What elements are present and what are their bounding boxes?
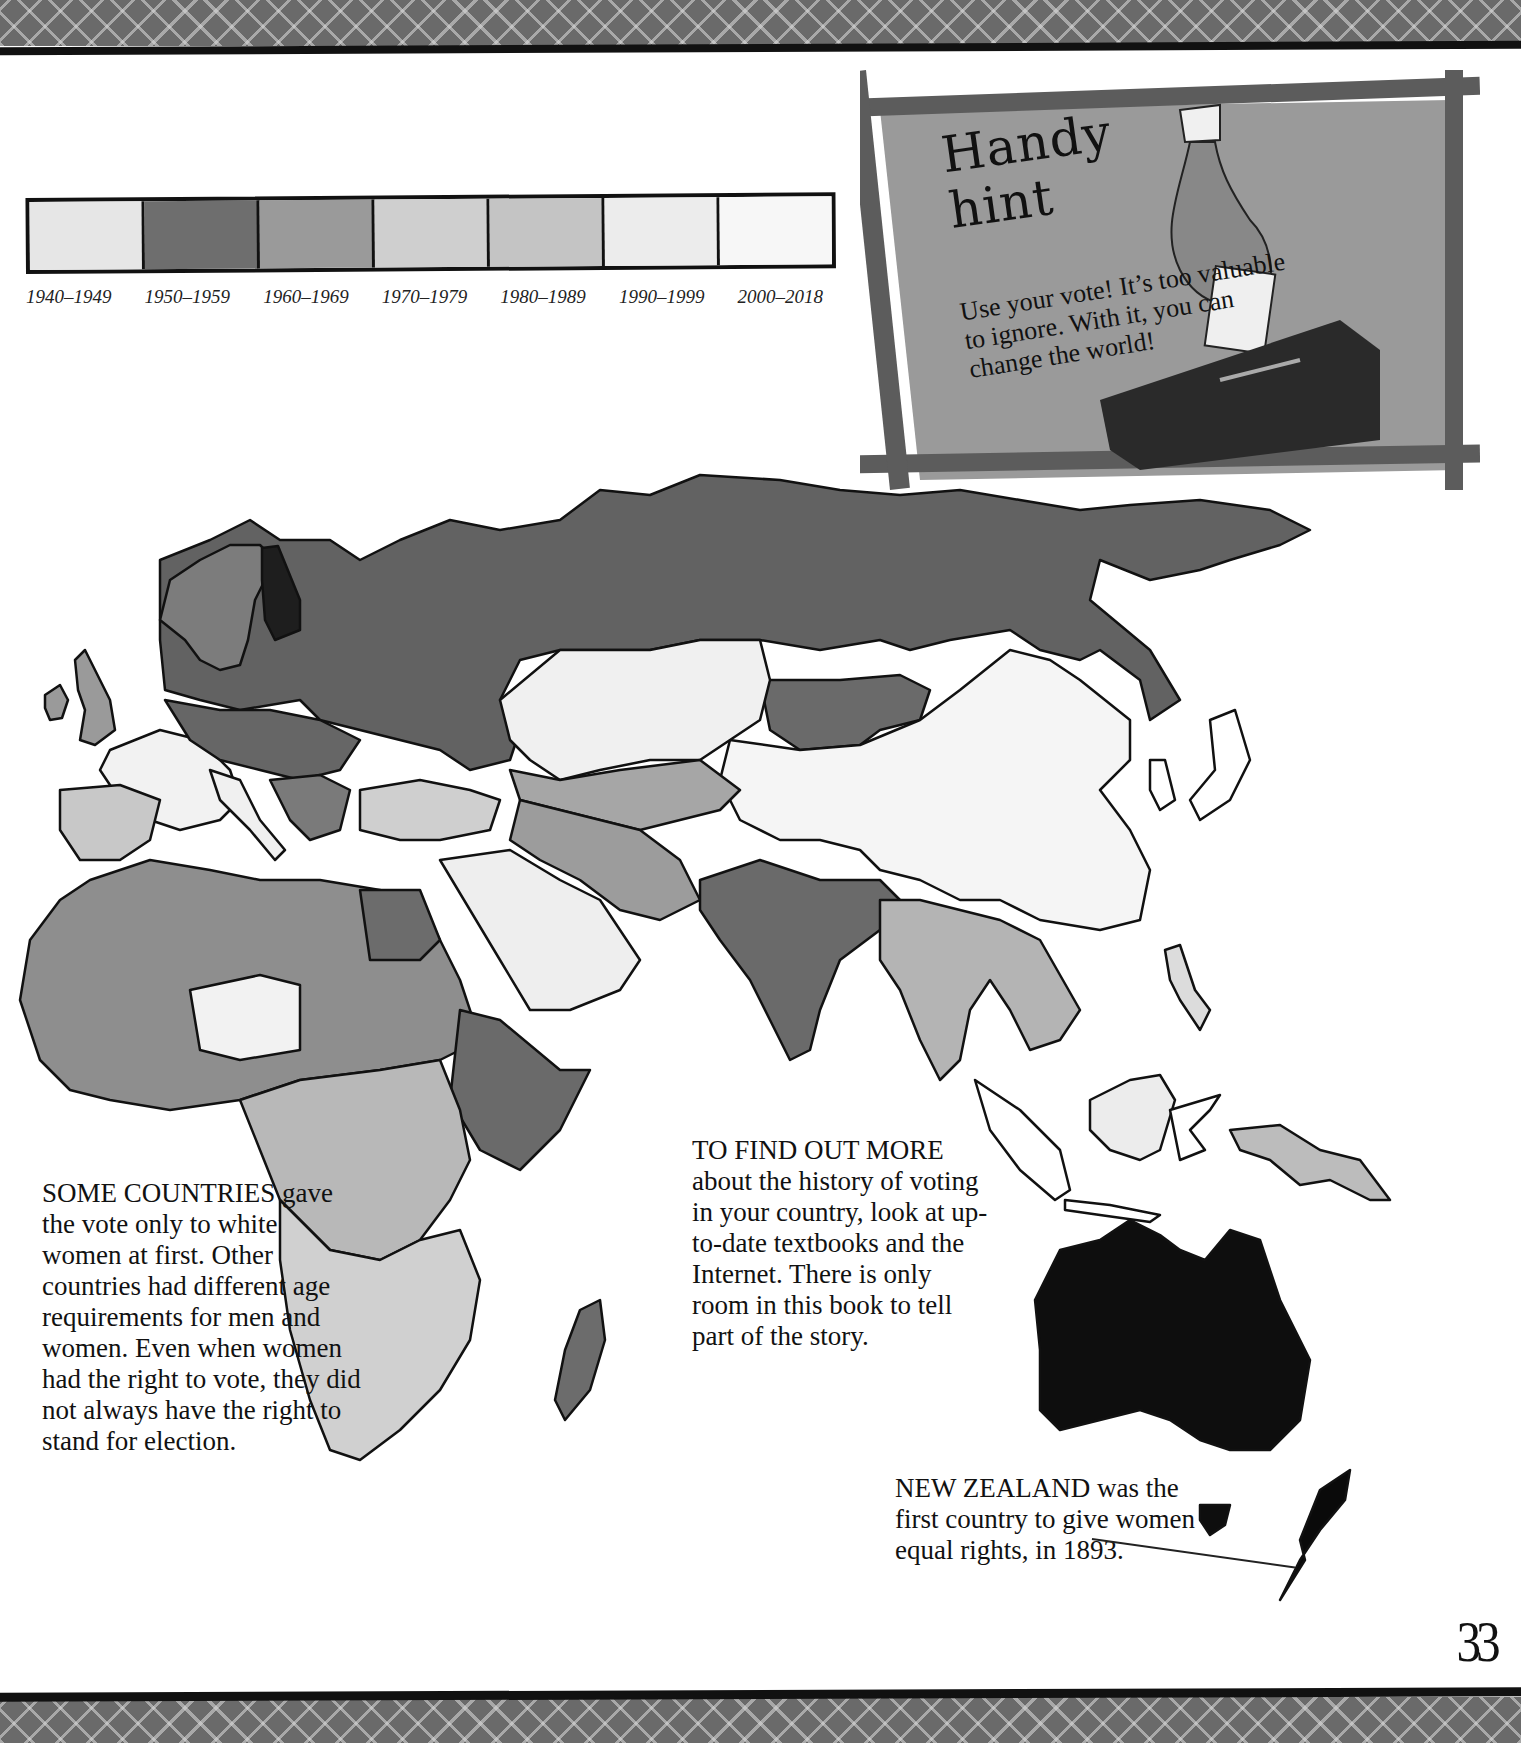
region-norway-sweden [160,545,275,670]
legend-swatch [29,201,144,270]
region-mongolia [760,675,930,750]
region-spain [60,785,160,860]
region-russia [160,475,1310,770]
region-arabia [440,850,640,1010]
text-lead: TO FIND OUT MORE [692,1135,944,1165]
region-india [700,860,900,1060]
region-sulawesi [1170,1095,1220,1160]
page-number: 33 [1456,1608,1495,1675]
text-new-zealand: NEW ZEALAND was the first country to giv… [895,1473,1195,1566]
text-some-countries: SOME COUNTRIES gave the vote only to whi… [42,1178,362,1457]
region-ireland [45,685,68,720]
legend-label: 1950–1959 [145,286,264,308]
region-tasmania [1200,1505,1230,1535]
legend-swatch [374,199,489,268]
region-niger [190,975,300,1060]
text-lead: NEW ZEALAND [895,1473,1090,1503]
legend-label: 1940–1949 [26,286,145,308]
text-body: gave the vote only to white women at fir… [42,1178,361,1456]
legend-label: 1980–1989 [500,286,619,308]
region-central-asia [510,760,740,830]
legend-swatch [489,198,604,267]
region-central-europe [165,700,360,780]
map-legend: 1940–1949 1950–1959 1960–1969 1970–1979 … [26,198,856,308]
legend-color-bar [25,192,836,274]
decorative-border-bottom [0,1697,1521,1743]
legend-swatch [604,197,719,266]
decorative-border-top [0,0,1521,46]
legend-label: 1970–1979 [382,286,501,308]
region-north-africa [20,860,480,1110]
legend-label: 2000–2018 [737,286,856,308]
region-borneo [1090,1075,1175,1160]
region-korea [1150,760,1175,810]
text-find-out-more: TO FIND OUT MORE about the history of vo… [692,1135,992,1352]
region-finland [262,546,300,640]
region-france [100,730,240,830]
region-southeast-asia [880,900,1080,1080]
legend-label: 1960–1969 [263,286,382,308]
legend-swatch [259,200,374,269]
region-east-africa [450,1010,590,1170]
text-lead: SOME COUNTRIES [42,1178,275,1208]
region-australia [1035,1220,1310,1450]
region-papua [1230,1125,1390,1200]
region-uk [75,650,115,745]
region-turkey [360,780,500,840]
region-egypt [360,890,440,960]
region-iran [510,800,700,920]
region-balkans [270,775,350,840]
region-kazakhstan [500,640,770,780]
legend-swatch [144,200,259,269]
region-java [1065,1200,1160,1222]
legend-swatch [719,196,831,265]
region-japan [1190,710,1250,820]
region-italy [210,770,285,860]
region-china [720,650,1150,930]
legend-label: 1990–1999 [619,286,738,308]
region-new-zealand [1280,1470,1350,1600]
text-body: about the history of voting in your coun… [692,1166,987,1351]
region-madagascar [555,1300,605,1420]
region-philippines [1165,945,1210,1030]
hint-title: Handy hint [938,104,1123,239]
